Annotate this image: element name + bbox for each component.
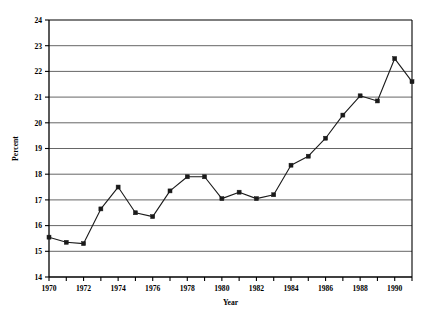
x-tick-label: 1972	[76, 284, 91, 293]
data-point-marker	[99, 207, 103, 211]
data-point-marker	[393, 57, 397, 61]
data-point-marker	[64, 240, 68, 244]
y-tick-label: 20	[34, 119, 42, 128]
x-tick-label: 1990	[387, 284, 402, 293]
y-tick-label: 16	[34, 221, 42, 230]
data-point-marker	[324, 136, 328, 140]
data-point-marker	[272, 193, 276, 197]
data-point-marker	[375, 99, 379, 103]
x-axis-ticks: 1970197219741976197819801982198419861988…	[41, 277, 412, 293]
line-chart-figure: 1415161718192021222324197019721974197619…	[0, 0, 430, 324]
data-point-marker	[185, 175, 189, 179]
data-point-marker	[254, 197, 258, 201]
y-tick-label: 18	[34, 170, 42, 179]
y-tick-label: 23	[34, 42, 42, 51]
data-point-marker	[116, 185, 120, 189]
data-point-marker	[237, 190, 241, 194]
x-axis-title: Year	[223, 298, 239, 307]
data-point-marker	[220, 197, 224, 201]
x-tick-label: 1980	[214, 284, 229, 293]
x-tick-label: 1982	[249, 284, 264, 293]
y-axis-ticks: 1415161718192021222324	[34, 16, 49, 282]
data-point-marker	[203, 175, 207, 179]
x-tick-label: 1976	[145, 284, 160, 293]
x-tick-label: 1970	[41, 284, 56, 293]
x-tick-label: 1974	[111, 284, 126, 293]
y-axis-title: Percent	[11, 136, 20, 161]
data-point-marker	[168, 189, 172, 193]
y-tick-label: 19	[34, 144, 42, 153]
chart-canvas: 1415161718192021222324197019721974197619…	[0, 0, 430, 324]
y-tick-label: 22	[34, 67, 42, 76]
y-tick-label: 17	[34, 196, 42, 205]
x-tick-label: 1988	[353, 284, 368, 293]
y-tick-label: 24	[34, 16, 42, 25]
x-tick-label: 1978	[180, 284, 195, 293]
y-tick-label: 15	[34, 247, 42, 256]
x-tick-label: 1986	[318, 284, 333, 293]
data-point-marker	[47, 235, 51, 239]
data-point-marker	[289, 163, 293, 167]
data-point-marker	[133, 211, 137, 215]
data-point-marker	[82, 242, 86, 246]
data-point-marker	[341, 113, 345, 117]
data-point-marker	[410, 80, 414, 84]
y-tick-label: 14	[34, 273, 42, 282]
y-tick-label: 21	[34, 93, 42, 102]
x-tick-label: 1984	[283, 284, 298, 293]
data-point-marker	[306, 154, 310, 158]
data-point-marker	[358, 94, 362, 98]
data-point-marker	[151, 215, 155, 219]
